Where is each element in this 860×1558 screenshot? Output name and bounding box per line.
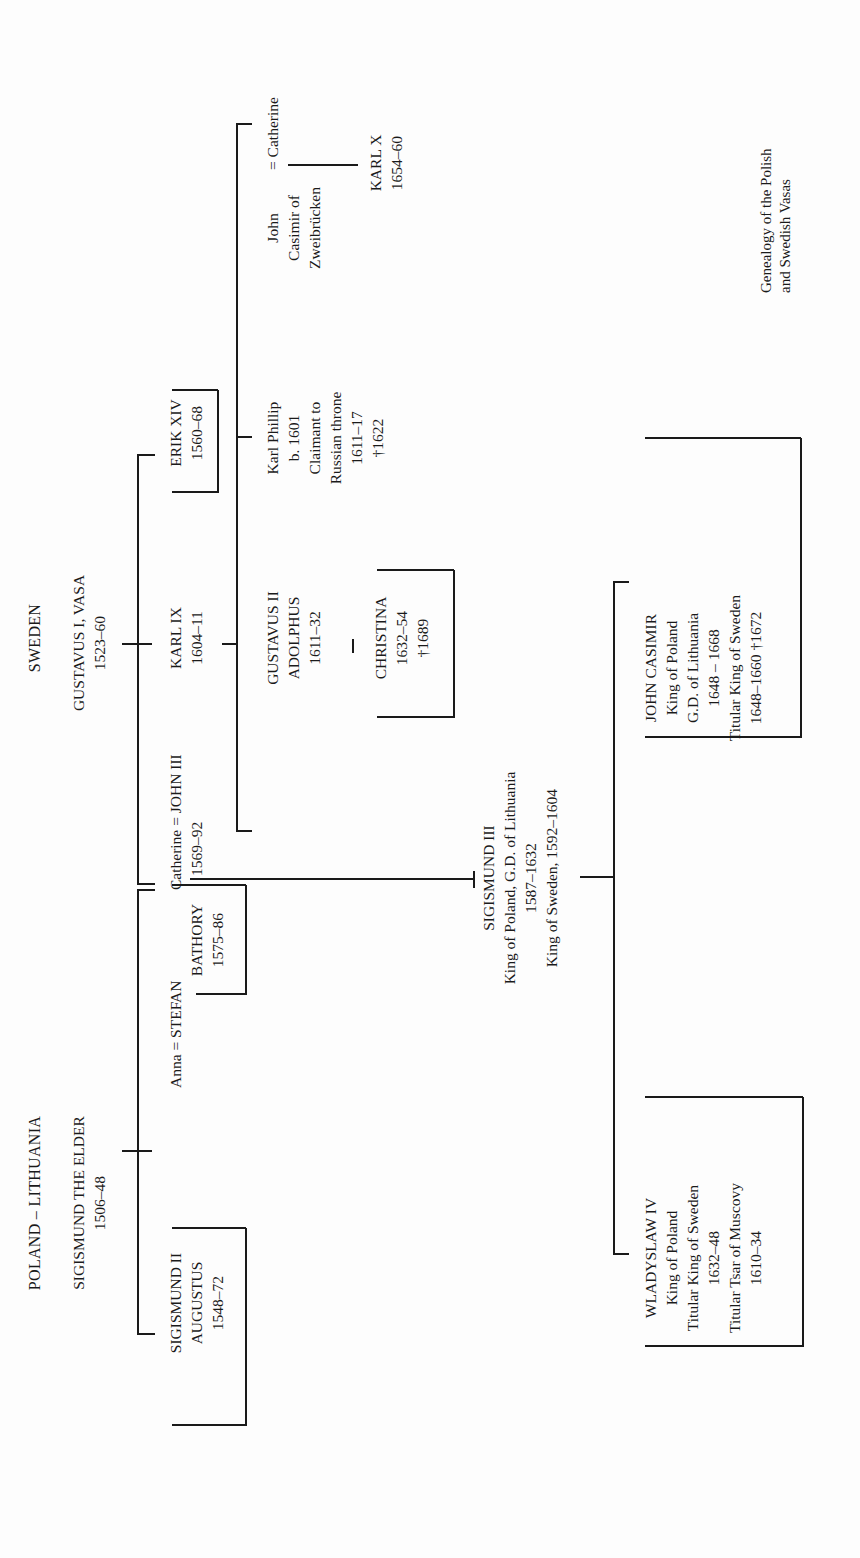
person-name: Karl Phillip [262, 373, 283, 503]
person-title: G.D. of Lithuania [682, 568, 703, 768]
person-reign: 1506–48 [89, 1068, 110, 1338]
person-reign: 1604–11 [186, 598, 207, 678]
box-border [645, 736, 801, 738]
karl-ix: KARL IX 1604–11 [165, 598, 207, 678]
box-border [172, 1424, 246, 1426]
catherine-john-iii: Catherine = JOHN III [165, 650, 186, 890]
connector-line [613, 581, 629, 583]
person-title: King of Poland, G.D. of Lithuania [499, 728, 520, 1028]
sigismund-ii-augustus: SIGISMUND II AUGUSTUS 1548–72 [165, 1228, 228, 1378]
person-birth: b. 1601 [283, 373, 304, 503]
connector-line [236, 436, 252, 438]
box-border [377, 569, 454, 571]
person-death: †1689 [412, 583, 433, 693]
connector-line [236, 124, 238, 832]
box-border [645, 437, 801, 439]
connector-line [190, 878, 473, 880]
anna-stefan-bathory: Anna = STEFAN [165, 908, 186, 1088]
person-name: Casimir of [283, 173, 304, 283]
person-reign: 1548–72 [207, 1228, 228, 1378]
box-border [645, 1345, 803, 1347]
caption-line: Genealogy of the Polish [757, 63, 776, 293]
person-name: STEFAN [167, 981, 184, 1038]
person-title: King of Poland [661, 1158, 682, 1358]
person-reign: 1611–32 [304, 573, 325, 703]
sigismund-iii: SIGISMUND III King of Poland, G.D. of Li… [478, 728, 562, 1028]
person-title: Russian throne [325, 373, 346, 503]
spouse-name: Anna [167, 1054, 184, 1088]
sweden-title: SWEDEN [24, 578, 45, 698]
john-casimir-zweibrucken: John Casimir of Zweibrücken [262, 173, 325, 283]
person-title: King of Sweden, 1592–1604 [541, 728, 562, 1028]
person-reign: 1632–48 [703, 1158, 724, 1358]
karl-x: KARL X 1654–60 [365, 118, 407, 208]
person-name: John [262, 173, 283, 283]
person-reign: 1610–34 [745, 1158, 766, 1358]
connector-line [236, 123, 252, 125]
person-reign: 1611–17 [346, 373, 367, 503]
caption-line: and Swedish Vasas [776, 63, 795, 293]
person-reign: 1648 – 1668 [703, 568, 724, 768]
connector-line [137, 883, 155, 885]
box-border [196, 993, 246, 995]
person-name: CHRISTINA [370, 583, 391, 693]
marriage-sign: = [264, 161, 281, 170]
person-name: AUGUSTUS [186, 1228, 207, 1378]
connector-line [288, 164, 358, 166]
person-name: SIGISMUND III [478, 728, 499, 1028]
person-death: †1622 [367, 373, 388, 503]
person-title: Titular Tsar of Muscovy [724, 1158, 745, 1358]
person-title: Titular King of Sweden [682, 1158, 703, 1358]
connector-line [222, 643, 237, 645]
person-reign: 1648–1660 †1672 [745, 568, 766, 768]
connector-line [137, 454, 155, 456]
box-border [377, 716, 454, 718]
diagram-caption: Genealogy of the Polish and Swedish Vasa… [757, 63, 795, 293]
person-name: ERIK XIV [165, 393, 186, 473]
person-name: KARL X [365, 118, 386, 208]
connector-line [613, 1253, 629, 1255]
person-reign: 1632–54 [391, 583, 412, 693]
connector-line [236, 830, 252, 832]
person-reign: 1575–86 [207, 885, 228, 995]
genealogy-diagram: POLAND – LITHUANIA SIGISMUND THE ELDER 1… [0, 0, 860, 1558]
stefan-bathory-box: BATHORY 1575–86 [186, 885, 228, 995]
box-border [245, 885, 247, 995]
box-border [172, 389, 218, 391]
person-name: GUSTAVUS II [262, 573, 283, 703]
person-name: GUSTAVUS I, VASA [68, 528, 89, 758]
box-border [453, 570, 455, 718]
connector-line [352, 639, 354, 653]
person-title: King of Poland [661, 568, 682, 768]
person-name: KARL IX [165, 598, 186, 678]
person-title: Titular King of Sweden [724, 568, 745, 768]
box-border [245, 1228, 247, 1426]
john-iii-reign: 1569–92 [186, 796, 207, 876]
person-name: Catherine [264, 97, 281, 157]
connector-line [137, 1333, 155, 1335]
connector-line [580, 876, 613, 878]
person-name: BATHORY [186, 885, 207, 995]
person-name: JOHN III [167, 754, 184, 813]
connector-line [137, 889, 155, 891]
connector-line [137, 889, 139, 1335]
box-border [172, 1227, 246, 1229]
box-border [217, 390, 219, 493]
person-name: JOHN CASIMIR [640, 568, 661, 768]
connector-line [613, 581, 615, 1255]
person-name: Zweibrücken [304, 173, 325, 283]
box-border [172, 491, 218, 493]
connector-line [122, 1150, 152, 1152]
person-reign: 1654–60 [386, 118, 407, 208]
christina: CHRISTINA 1632–54 †1689 [370, 583, 433, 693]
gustavus-ii-adolphus: GUSTAVUS II ADOLPHUS 1611–32 [262, 573, 325, 703]
spouse-name: Catherine [167, 830, 184, 890]
person-name: ADOLPHUS [283, 573, 304, 703]
connector-line [473, 871, 475, 888]
catherine-spouse: = Catherine [262, 50, 283, 170]
sigismund-the-elder: SIGISMUND THE ELDER 1506–48 [68, 1068, 110, 1338]
poland-lithuania-title: POLAND – LITHUANIA [24, 1098, 45, 1308]
box-border [645, 1096, 803, 1098]
person-reign: 1523–60 [89, 528, 110, 758]
person-name: WLADYSLAW IV [640, 1158, 661, 1358]
